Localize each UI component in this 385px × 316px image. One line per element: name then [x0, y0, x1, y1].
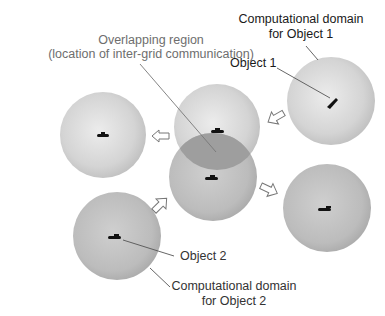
sphere-right-bottom — [283, 164, 371, 252]
sphere-center — [169, 133, 257, 221]
sphere-left — [60, 92, 146, 178]
sphere-object1 — [287, 57, 375, 145]
domain2-label-line1: Computational domain — [171, 279, 296, 293]
overlap-label-line1: Overlapping region — [98, 33, 204, 47]
domain1-label-line2: for Object 1 — [269, 27, 334, 41]
leader-domain2 — [150, 268, 170, 287]
domain1-label-line1: Computational domain — [238, 12, 363, 26]
overlap-label-line2: (location of inter-grid communication) — [48, 47, 254, 61]
arrow-down-right-icon — [258, 179, 280, 199]
object2-label: Object 2 — [180, 249, 227, 263]
overset-grid-diagram: Overlapping region (location of inter-gr… — [0, 0, 385, 316]
object1-label: Object 1 — [230, 56, 277, 70]
domain2-label-line2: for Object 2 — [202, 294, 267, 308]
sphere-object2 — [73, 192, 161, 280]
arrow-left-icon — [152, 130, 169, 142]
leader-domain1 — [306, 46, 318, 60]
arrow-down-left-icon — [265, 107, 288, 128]
